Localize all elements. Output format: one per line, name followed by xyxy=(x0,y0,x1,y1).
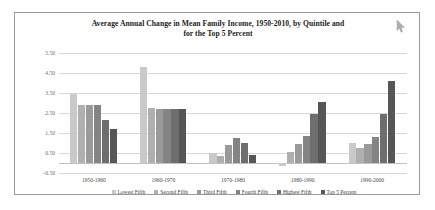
y-axis-tick-label: 1.50 xyxy=(45,130,55,136)
legend-item-label: Third Fifth xyxy=(203,189,227,195)
bar xyxy=(295,144,302,163)
legend-item[interactable]: Lowest Fifth xyxy=(112,189,146,195)
plot-area: 5.504.503.502.501.500.50-0.50 1950-19601… xyxy=(59,53,407,173)
legend-swatch-icon xyxy=(112,190,116,194)
legend-swatch-icon xyxy=(197,190,201,194)
bar-group: 1980-1990 xyxy=(268,53,338,173)
x-axis-category-label: 1950-1960 xyxy=(82,177,106,183)
legend-item[interactable]: Second Fifth xyxy=(154,189,188,195)
legend-item[interactable]: Third Fifth xyxy=(197,189,227,195)
bar xyxy=(156,109,163,163)
bar xyxy=(388,81,395,163)
bar xyxy=(233,138,240,163)
y-axis-tick-label: 4.50 xyxy=(45,70,55,76)
bar xyxy=(303,136,310,163)
bar xyxy=(372,137,379,163)
bar xyxy=(102,120,109,163)
bar xyxy=(380,114,387,163)
bar xyxy=(225,145,232,163)
bar xyxy=(110,129,117,163)
chart-figure-frame: Average Annual Change in Mean Family Inc… xyxy=(14,12,420,195)
legend-item[interactable]: Highest Fifth xyxy=(277,189,312,195)
legend-item-label: Second Fifth xyxy=(160,189,188,195)
bar xyxy=(217,156,224,163)
legend-item-label: Top 5 Percent xyxy=(327,189,357,195)
x-axis-category-label: 1990-2000 xyxy=(360,177,384,183)
bar xyxy=(163,109,170,163)
chart-title-line-2: for the Top 5 Percent xyxy=(43,29,393,39)
x-axis-category-label: 1970-1980 xyxy=(221,177,245,183)
bar xyxy=(287,152,294,163)
bar-group: 1950-1960 xyxy=(59,53,129,173)
bar xyxy=(249,155,256,163)
legend-swatch-icon xyxy=(321,190,325,194)
legend-swatch-icon xyxy=(277,190,281,194)
legend-item-label: Lowest Fifth xyxy=(118,189,146,195)
bar xyxy=(78,105,85,163)
chart-legend: Lowest FifthSecond FifthThird FifthFourt… xyxy=(59,189,409,195)
y-axis-tick-label: 5.50 xyxy=(45,50,55,56)
bar xyxy=(86,105,93,163)
legend-swatch-icon xyxy=(236,190,240,194)
bar xyxy=(349,143,356,163)
bar-group: 1960-1970 xyxy=(129,53,199,173)
bar xyxy=(179,109,186,163)
bar xyxy=(140,67,147,163)
bar-group: 1990-2000 xyxy=(337,53,407,173)
bar xyxy=(94,105,101,163)
bar xyxy=(241,143,248,163)
x-axis-category-label: 1980-1990 xyxy=(291,177,315,183)
bar xyxy=(356,148,363,163)
bar xyxy=(209,153,216,163)
gridline xyxy=(59,173,407,174)
chart-title: Average Annual Change in Mean Family Inc… xyxy=(43,19,393,38)
bar xyxy=(171,109,178,163)
x-axis-category-label: 1960-1970 xyxy=(151,177,175,183)
y-axis-tick-label: -0.50 xyxy=(43,170,55,176)
bar xyxy=(318,102,325,163)
bar xyxy=(148,108,155,163)
bar xyxy=(310,114,317,163)
chart-title-line-1: Average Annual Change in Mean Family Inc… xyxy=(92,19,345,28)
y-axis-tick-label: 3.50 xyxy=(45,90,55,96)
bar xyxy=(364,144,371,163)
bar xyxy=(70,94,77,163)
legend-item-label: Fourth Fifth xyxy=(242,189,268,195)
legend-item[interactable]: Fourth Fifth xyxy=(236,189,268,195)
bar-group: 1970-1980 xyxy=(198,53,268,173)
bar xyxy=(279,163,286,166)
mouse-cursor-icon xyxy=(396,19,407,32)
y-axis-tick-label: 2.50 xyxy=(45,110,55,116)
legend-item[interactable]: Top 5 Percent xyxy=(321,189,357,195)
legend-item-label: Highest Fifth xyxy=(283,189,312,195)
legend-swatch-icon xyxy=(154,190,158,194)
y-axis-tick-label: 0.50 xyxy=(45,150,55,156)
screenshot-root: Average Annual Change in Mean Family Inc… xyxy=(0,0,435,210)
